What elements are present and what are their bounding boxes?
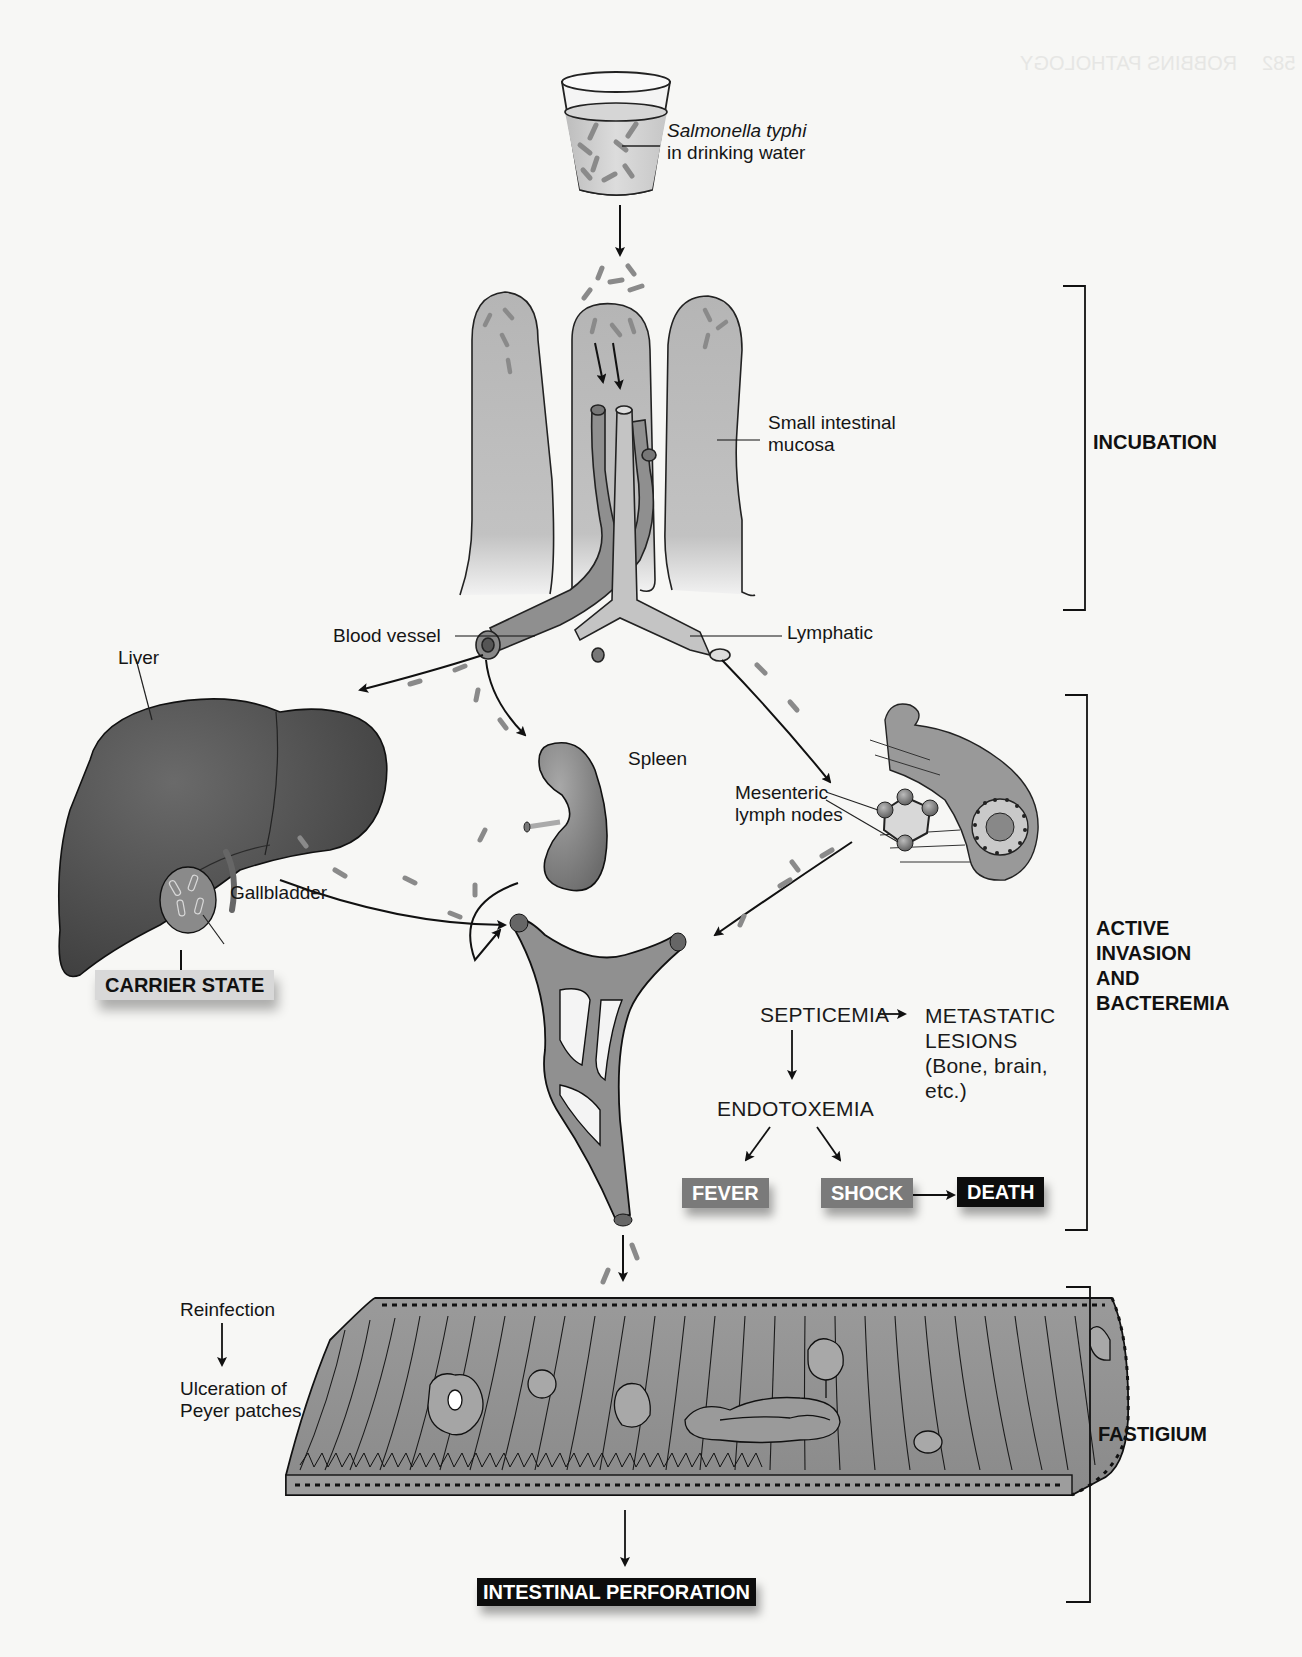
ileum-peyer-patches-icon <box>286 1298 1128 1495</box>
label-gallbladder: Gallbladder <box>230 882 327 904</box>
metastatic-lesions-label: METASTATIC LESIONS (Bone, brain, etc.) <box>925 1003 1055 1103</box>
label-lymphatic: Lymphatic <box>787 622 873 644</box>
reinfection-label: Reinfection <box>180 1299 275 1321</box>
fever-box: FEVER <box>682 1178 769 1208</box>
endotoxemia-label: ENDOTOXEMIA <box>717 1097 874 1120</box>
liver-icon <box>59 659 387 977</box>
source-label: Salmonella typhi in drinking water <box>667 120 806 164</box>
label-mesenteric-lymph-nodes: Mesenteric lymph nodes <box>735 782 843 826</box>
spleen-icon <box>524 743 607 891</box>
phase-incubation: INCUBATION <box>1093 430 1217 454</box>
typhoid-pathogenesis-diagram: ROBBINS PATHOLOGY 582 <box>0 0 1302 1657</box>
phase-fastigium: FASTIGIUM <box>1098 1422 1207 1446</box>
death-box: DEATH <box>957 1177 1044 1207</box>
ulceration-label: Ulceration of Peyer patches <box>180 1378 301 1422</box>
label-liver: Liver <box>118 647 159 669</box>
label-small-intestinal-mucosa: Small intestinal mucosa <box>768 412 896 456</box>
shock-box: SHOCK <box>821 1178 913 1208</box>
phase-active-invasion-bacteremia: ACTIVE INVASION AND BACTEREMIA <box>1096 916 1229 1016</box>
bacteria-falling <box>584 266 642 298</box>
label-blood-vessel: Blood vessel <box>333 625 441 647</box>
intestinal-perforation-box: INTESTINAL PERFORATION <box>477 1578 756 1606</box>
mesenteric-intestine-icon <box>826 704 1038 880</box>
septicemia-label: SEPTICEMIA <box>760 1003 889 1026</box>
glass-of-water-icon <box>562 72 670 195</box>
carrier-state-box: CARRIER STATE <box>95 970 274 1000</box>
label-spleen: Spleen <box>628 748 687 770</box>
bloodstream-vessel-icon <box>510 914 686 1226</box>
